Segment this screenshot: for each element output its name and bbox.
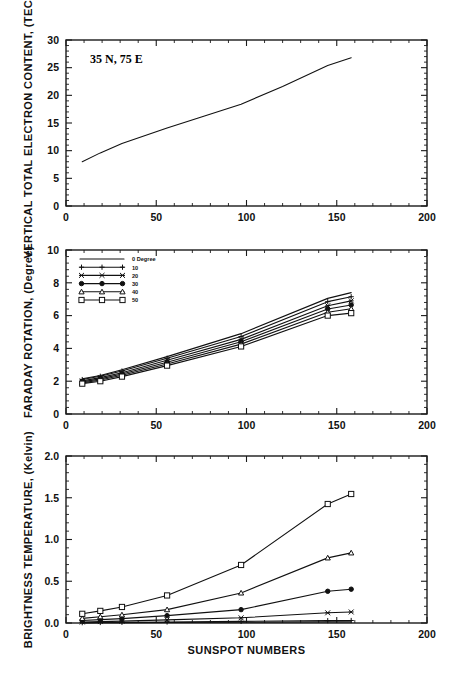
y-tick-label: 0 [53,200,59,212]
x-tick-label: 150 [328,211,346,223]
y-tick-label: 0.5 [44,575,59,587]
legend-label: 40 [132,289,138,295]
marker-triangle [349,550,354,555]
x-tick-label: 50 [150,628,162,640]
y-tick-label: 30 [47,34,59,46]
marker-square [238,344,243,349]
marker-circle [239,607,243,611]
x-tick-label: 100 [238,211,256,223]
marker-circle [79,281,83,285]
series-line [82,58,351,162]
series-50 [80,491,354,616]
marker-square [349,491,354,496]
y-tick-label: 8 [53,277,59,289]
marker-triangle [238,590,243,595]
panel-bottom: 0501001502000.00.51.01.52.0BRIGHTNESS TE… [22,431,436,656]
series-line [82,293,351,379]
y-tick-label: 5 [53,172,59,184]
series-line [82,297,351,380]
series-line [82,494,351,614]
y-tick-label: 6 [53,309,59,321]
panel-middle: 0501001502000246810FARADAY ROTATION, (De… [22,244,436,431]
y-axis-label: FARADAY ROTATION, (Degree) [22,246,34,418]
x-tick-label: 100 [238,628,256,640]
legend: 0 Degree1020304050 [79,256,156,303]
marker-circle [349,587,353,591]
x-tick-label: 50 [150,419,162,431]
x-tick-label: 150 [328,628,346,640]
x-tick-label: 0 [63,211,69,223]
y-tick-label: 1.5 [44,492,59,504]
y-tick-label: 25 [47,61,59,73]
marker-circle [120,281,124,285]
marker-triangle [120,289,125,294]
y-tick-label: 1.0 [44,533,59,545]
marker-square [99,297,104,302]
y-tick-label: 15 [47,117,59,129]
y-tick-label: 4 [53,342,59,354]
series-0 [82,293,351,379]
x-tick-label: 200 [418,419,436,431]
marker-square [80,611,85,616]
y-tick-label: 0.0 [44,617,59,629]
marker-square [119,374,124,379]
y-tick-label: 20 [47,89,59,101]
marker-triangle [99,289,104,294]
y-tick-label: 2.0 [44,450,59,462]
series-10 [80,294,354,382]
series-VTEC [82,58,351,162]
y-axis-label: BRIGHTNESS TEMPERATURE, (Kelvin) [22,431,34,648]
y-axis-label: VERTICAL TOTAL ELECTRON CONTENT, (TECU) [22,0,34,258]
x-tick-label: 0 [63,628,69,640]
y-tick-label: 2 [53,375,59,387]
x-tick-label: 150 [328,419,346,431]
marker-square [98,379,103,384]
marker-square [119,604,124,609]
x-tick-label: 50 [150,211,162,223]
marker-square [80,381,85,386]
legend-label: 20 [132,273,138,279]
plot-frame [66,456,427,623]
marker-triangle [119,612,124,617]
marker-triangle [98,614,103,619]
x-tick-label: 200 [418,628,436,640]
marker-square [79,297,84,302]
marker-square [349,311,354,316]
marker-square [325,501,330,506]
marker-circle [165,613,169,617]
marker-square [98,608,103,613]
marker-circle [100,281,104,285]
marker-circle [326,589,330,593]
x-tick-label: 100 [238,419,256,431]
y-tick-label: 10 [47,244,59,256]
multi-panel-plot: 050100150200051015202530VERTICAL TOTAL E… [0,0,464,673]
x-tick-label: 200 [418,211,436,223]
legend-label: 50 [132,297,138,303]
marker-square [120,297,125,302]
legend-label: 10 [132,265,138,271]
x-axis-label: SUNSPOT NUMBERS [188,644,306,656]
legend-label: 30 [132,281,138,287]
marker-square [325,313,330,318]
y-tick-label: 10 [47,144,59,156]
panel-annotation: 35 N, 75 E [90,52,143,66]
marker-square [164,593,169,598]
figure-container: 050100150200051015202530VERTICAL TOTAL E… [0,0,464,673]
legend-label: 0 Degree [132,256,156,262]
marker-triangle [325,555,330,560]
panel-top: 050100150200051015202530VERTICAL TOTAL E… [22,0,436,258]
y-tick-label: 0 [53,408,59,420]
marker-square [238,562,243,567]
marker-square [164,363,169,368]
marker-triangle [79,289,84,294]
x-tick-label: 0 [63,419,69,431]
marker-triangle [164,607,169,612]
